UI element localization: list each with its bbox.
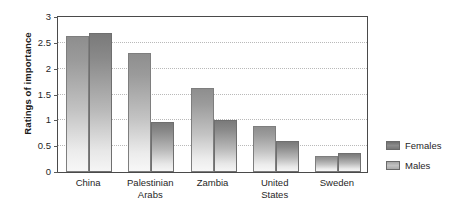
x-axis-label: Sweden	[306, 177, 368, 189]
y-axis-tick-label: 2	[11, 64, 51, 74]
x-axis-label-line: Arabs	[119, 189, 181, 201]
bar-group	[315, 17, 361, 172]
bar-group	[66, 17, 112, 172]
y-axis-tick-mark	[54, 172, 58, 173]
x-axis-label-line: Zambia	[181, 177, 243, 189]
bar-chart: Ratings of importance 00.511.522.53 Chin…	[0, 0, 457, 212]
bar	[253, 126, 276, 172]
bar	[191, 88, 214, 172]
bar	[276, 141, 299, 172]
bar-group	[253, 17, 299, 172]
y-axis-tick-label: 2.5	[11, 38, 51, 48]
x-axis-label-line: United	[244, 177, 306, 189]
y-axis-tick-mark	[54, 95, 58, 96]
y-axis-tick-label: 0	[11, 167, 51, 177]
x-axis-label-line: Palestinian	[119, 177, 181, 189]
legend: FemalesMales	[386, 137, 441, 177]
y-axis-tick-label: 1.5	[11, 90, 51, 100]
legend-swatch-icon	[386, 141, 400, 150]
legend-swatch-icon	[386, 161, 400, 170]
legend-label: Females	[405, 140, 441, 151]
x-axis-label: PalestinianArabs	[119, 177, 181, 200]
legend-item-females: Females	[386, 137, 441, 153]
y-axis-tick-label: 0.5	[11, 141, 51, 151]
bar	[151, 122, 174, 172]
bar	[89, 33, 112, 172]
bar	[66, 36, 89, 172]
y-axis-tick-mark	[54, 69, 58, 70]
y-axis-tick-label: 1	[11, 116, 51, 126]
x-axis-label: Zambia	[181, 177, 243, 189]
x-axis-label: China	[57, 177, 119, 189]
y-axis-tick-mark	[54, 146, 58, 147]
x-axis-label-line: Sweden	[306, 177, 368, 189]
plot-inner: 00.511.522.53	[58, 17, 367, 172]
x-axis-label: UnitedStates	[244, 177, 306, 200]
bar	[338, 153, 361, 172]
y-axis-tick-mark	[54, 43, 58, 44]
bar-group	[191, 17, 237, 172]
y-axis-tick-mark	[54, 120, 58, 121]
legend-label: Males	[405, 160, 430, 171]
x-axis-label-line: States	[244, 189, 306, 201]
legend-item-males: Males	[386, 157, 441, 173]
y-axis-tick-mark	[54, 17, 58, 18]
bar	[214, 120, 237, 172]
x-axis-label-line: China	[57, 177, 119, 189]
bar	[315, 156, 338, 172]
bar-group	[128, 17, 174, 172]
plot-area: 00.511.522.53	[57, 16, 368, 173]
bar	[128, 53, 151, 172]
y-axis-tick-label: 3	[11, 12, 51, 22]
